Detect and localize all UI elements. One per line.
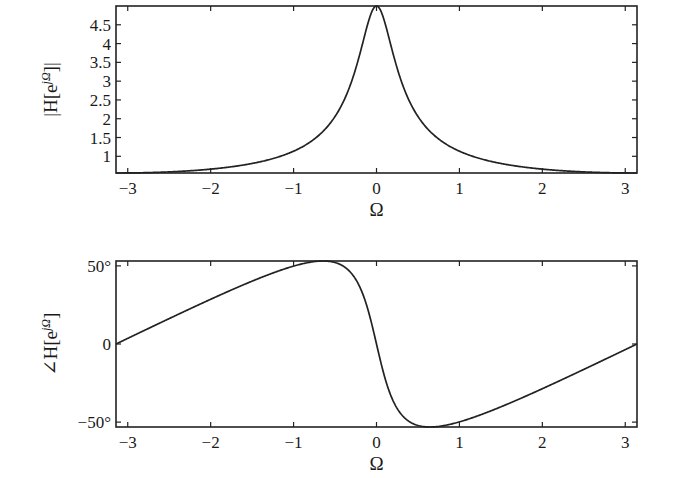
phase-ytick-label: −50°: [78, 413, 111, 432]
magnitude-ytick-label: 4: [103, 35, 112, 54]
phase-plot: −3−2−10123−50°050° Ω ∠H[ejΩ]: [39, 257, 637, 474]
magnitude-ytick-label: 1.5: [90, 129, 111, 148]
phase-xtick-label: −1: [285, 433, 303, 452]
magnitude-xtick-label: −1: [285, 179, 303, 198]
phase-xtick-label: 0: [372, 433, 381, 452]
phase-ylabel-suffix: ]: [40, 313, 61, 319]
magnitude-curve: [116, 6, 637, 173]
magnitude-y-axis-label: |H[ejΩ]|: [39, 62, 61, 116]
magnitude-plot-frame: [116, 6, 637, 173]
magnitude-xtick-label: 2: [538, 179, 547, 198]
magnitude-ylabel-superscript: jΩ: [39, 72, 53, 86]
magnitude-ytick-label: 2.5: [90, 91, 111, 110]
phase-ylabel-superscript: jΩ: [39, 319, 53, 333]
magnitude-xtick-label: 3: [621, 179, 630, 198]
figure: −3−2−1012311.522.533.544.5 Ω |H[ejΩ]| −3…: [0, 0, 673, 478]
phase-xtick-label: −3: [119, 433, 137, 452]
phase-xtick-label: 2: [538, 433, 547, 452]
magnitude-ylabel-prefix: |H[e: [40, 84, 61, 116]
magnitude-xtick-label: −2: [202, 179, 220, 198]
phase-ytick-label: 0: [103, 335, 112, 354]
magnitude-ytick-label: 2: [103, 110, 112, 129]
phase-ylabel-prefix: ∠H[e: [40, 331, 61, 375]
magnitude-ytick-label: 4.5: [90, 16, 111, 35]
phase-x-axis-label: Ω: [369, 453, 383, 474]
magnitude-x-axis-label: Ω: [369, 199, 383, 220]
phase-xtick-label: 1: [455, 433, 464, 452]
magnitude-ytick-label: 3: [103, 72, 112, 91]
magnitude-ticks: −3−2−1012311.522.533.544.5: [90, 6, 637, 198]
phase-y-axis-label: ∠H[ejΩ]: [39, 313, 61, 376]
magnitude-ylabel-suffix: ]|: [40, 62, 61, 72]
phase-xtick-label: 3: [621, 433, 630, 452]
magnitude-plot: −3−2−1012311.522.533.544.5 Ω |H[ejΩ]|: [39, 6, 637, 220]
magnitude-xtick-label: 1: [455, 179, 464, 198]
magnitude-ytick-label: 3.5: [90, 53, 111, 72]
magnitude-xtick-label: 0: [372, 179, 381, 198]
magnitude-ytick-label: 1: [103, 147, 112, 166]
phase-ytick-label: 50°: [87, 257, 111, 276]
phase-xtick-label: −2: [202, 433, 220, 452]
magnitude-xtick-label: −3: [119, 179, 137, 198]
phase-ticks: −3−2−10123−50°050°: [78, 257, 637, 452]
phase-curve: [116, 261, 637, 427]
